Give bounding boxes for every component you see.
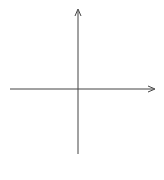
coordinate-plane — [0, 0, 164, 180]
axes — [10, 9, 155, 154]
